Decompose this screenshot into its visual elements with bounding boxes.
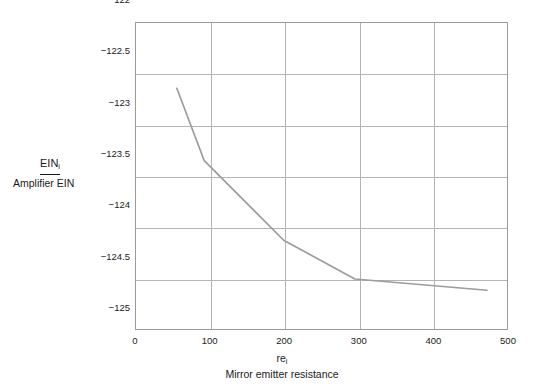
data-series-line <box>136 23 507 329</box>
y-axis-tick-label: −124.5 <box>70 252 130 262</box>
y-axis-tick-label: −125 <box>70 303 130 313</box>
x-axis-label-symbol: rei <box>0 352 537 368</box>
x-axis-tick-label: 300 <box>329 336 389 346</box>
x-axis-tick-labels: 0100200300400500 <box>135 336 508 350</box>
y-axis-label-symbol-text: EIN <box>40 157 58 169</box>
y-axis-tick-label: −124 <box>70 200 130 210</box>
x-axis-tick-label: 500 <box>478 336 537 346</box>
y-axis-label-symbol: EINi <box>40 157 60 175</box>
x-axis-label-description: Mirror emitter resistance <box>0 368 537 380</box>
y-axis-label-description: Amplifier EIN <box>13 177 74 189</box>
x-axis-label-symbol-text: re <box>276 352 285 364</box>
y-axis-tick-label: −122 <box>70 0 130 5</box>
x-axis-label-description-text: Mirror emitter resistance <box>225 368 338 380</box>
y-axis-label-subscript: i <box>58 162 60 171</box>
x-axis-tick-label: 0 <box>105 336 165 346</box>
y-axis-tick-label: −123 <box>70 98 130 108</box>
chart-figure: −122−122.5−123−123.5−124−124.5−125 01002… <box>0 0 537 387</box>
y-axis-tick-label: −122.5 <box>70 46 130 56</box>
x-axis-tick-label: 100 <box>180 336 240 346</box>
x-axis-tick-label: 200 <box>254 336 314 346</box>
plot-area <box>135 22 508 330</box>
y-axis-tick-labels: −122−122.5−123−123.5−124−124.5−125 <box>66 0 130 308</box>
y-axis-tick-label: −123.5 <box>70 149 130 159</box>
x-axis-label-subscript: i <box>286 357 288 366</box>
series-polyline <box>177 88 487 290</box>
x-axis-tick-label: 400 <box>403 336 463 346</box>
